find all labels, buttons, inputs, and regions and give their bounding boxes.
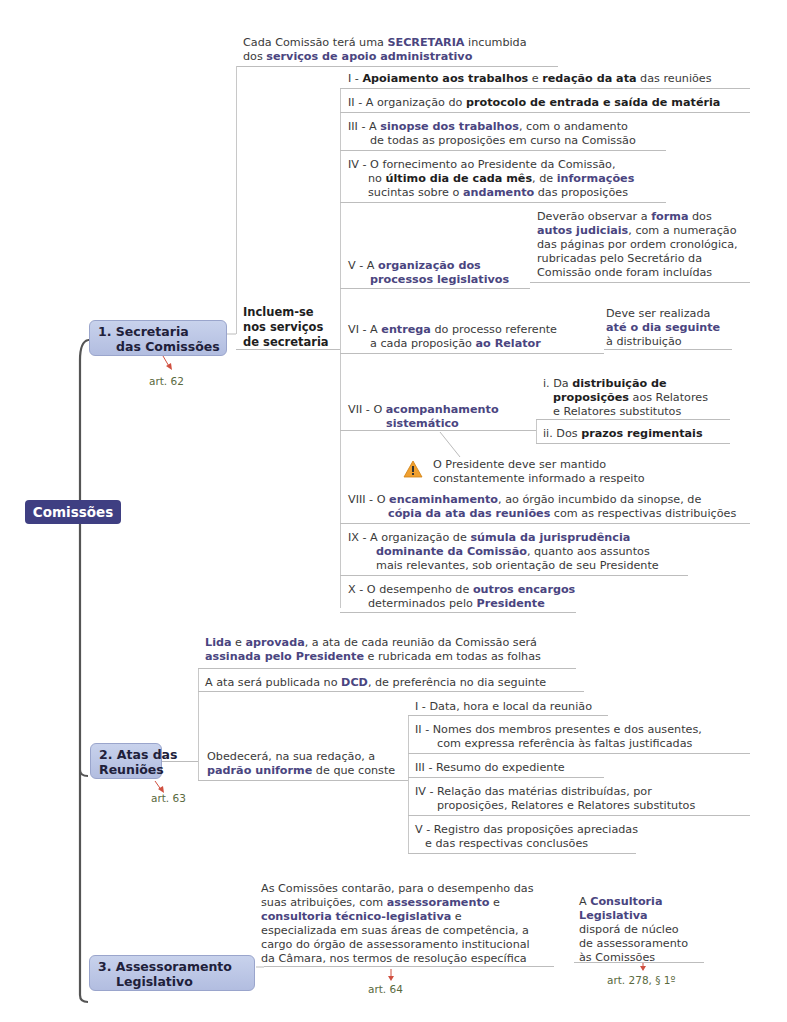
underline [574,962,704,963]
assessoramento-text: As Comissões contarão, para o desempenho… [261,882,534,966]
underline [340,575,688,576]
underline [340,202,666,203]
atas-item-iii: III - Resumo do expediente [415,761,565,775]
atas-item-v: V - Registro das proposições apreciadas … [415,823,638,851]
reference-art-278: art. 278, § 1º [607,974,675,986]
node-label-line1: 3. Assessoramento [98,959,246,974]
underline [340,288,530,289]
node-label-line2: Reuniões [99,762,153,777]
item-ii: II - A organização do protocolo de entra… [348,96,720,110]
item-iii: III - A sinopse dos trabalhos, com o and… [348,120,636,148]
underline [198,668,576,669]
atas-item-iv: IV - Relação das matérias distribuídas, … [415,785,695,813]
node-label-line2: das Comissões [98,339,218,354]
bracket-line [198,668,199,780]
atas-item-ii: II - Nomes dos membros presentes e dos a… [415,723,702,751]
bracket-line [236,66,237,334]
item-ix: IX - A organização de súmula da jurispru… [348,531,659,573]
underline [340,523,750,524]
item-x: X - O desempenho de outros encargos dete… [348,583,575,611]
underline [530,282,750,283]
connector [162,761,198,762]
item-vi-note: Deve ser realizada até o dia seguinte à … [606,307,720,349]
underline [198,780,408,781]
underline [340,612,576,613]
subitem-i: i. Da distribuição de proposições aos Re… [543,377,708,419]
atas-group-label: Obedecerá, na sua redação, a padrão unif… [207,750,395,778]
underline [340,150,666,151]
underline [264,966,554,967]
node-label-line1: 2. Atas das [99,747,153,762]
consultoria-note: A Consultoria Legislativa disporá de núc… [579,895,688,965]
atas-statement-2: A ata será publicada no DCD, de preferên… [205,676,546,690]
underline [408,815,750,816]
item-v-note: Deverão observar a forma dos autos judic… [537,210,738,280]
underline [408,715,608,716]
underline [340,353,604,354]
node-assessoramento-legislativo[interactable]: 3. Assessoramento Legislativo [89,955,255,991]
underline [408,753,750,754]
underline [340,430,536,431]
reference-art-64: art. 64 [368,983,403,995]
group-label-incluem-se: Incluem-se nos serviços de secretaria [243,305,329,350]
secretaria-intro: Cada Comissão terá uma SECRETARIA incumb… [243,36,527,64]
underline [408,777,604,778]
item-vii: VII - O acompanhamento sistemático [348,403,499,431]
underline [340,88,750,89]
node-atas-das-reunioes[interactable]: 2. Atas das Reuniões [90,743,162,779]
subitems-bracket [536,419,537,443]
root-node-comissoes[interactable]: Comissões [25,500,121,524]
reference-art-63: art. 63 [151,792,186,804]
items-bracket-line [408,715,409,853]
reference-art-62: art. 62 [149,375,184,387]
underline [604,349,732,350]
atas-item-i: I - Data, hora e local da reunião [415,700,592,714]
underline [408,853,636,854]
underline [340,112,750,113]
item-i: I - Apoiamento aos trabalhos e redação d… [348,72,712,86]
item-v: V - A organização dos processos legislat… [348,259,509,287]
atas-statement-1: Lida e aprovada, a ata de cada reunião d… [205,636,541,664]
items-bracket-line [340,88,341,608]
node-label-line2: Legislativo [98,974,246,989]
node-secretaria-das-comissoes[interactable]: 1. Secretaria das Comissões [89,320,227,356]
underline [536,419,730,420]
underline [198,691,584,692]
subitem-ii: ii. Dos prazos regimentais [543,427,703,441]
underline [236,66,558,67]
warning-icon [403,460,423,478]
item-iv: IV - O fornecimento ao Presidente da Com… [348,158,634,200]
underline [536,443,730,444]
item-vi: VI - A entrega do processo referente a c… [348,323,557,351]
item-viii: VIII - O encaminhamento, ao órgão incumb… [348,493,736,521]
warning-note: O Presidente deve ser mantido constantem… [433,458,645,486]
node-label-line1: 1. Secretaria [98,324,218,339]
